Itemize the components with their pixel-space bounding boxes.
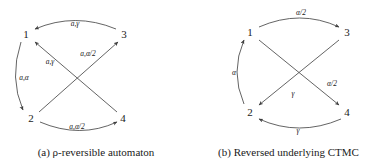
edge-label-2-to-1: α	[232, 69, 236, 77]
edge-4-to-2	[259, 119, 341, 128]
edge-2-to-1	[237, 40, 244, 104]
node-3: 3	[121, 29, 127, 40]
panel-a-caption: (a) ρ-reversible automaton	[0, 145, 192, 159]
edge-label-1-to-2: a,α	[19, 74, 29, 82]
node-4: 4	[120, 113, 126, 124]
node-4: 4	[344, 107, 350, 118]
edge-label-1-to-4: α/2	[327, 80, 337, 88]
panel-a-graph	[0, 0, 192, 165]
edge-label-3-to-1: a,γ	[71, 20, 80, 28]
edge-2-to-3	[39, 42, 118, 112]
panel-b-graph	[192, 0, 385, 165]
edge-label-4-to-1: a,γ	[46, 58, 55, 66]
node-1: 1	[23, 29, 29, 40]
edge-label-4-to-2: γ	[297, 127, 300, 135]
edge-label-3-to-2: γ	[292, 90, 295, 98]
edge-label-2-to-4: a,α/2	[69, 123, 84, 131]
node-1: 1	[247, 27, 253, 38]
edge-label-2-to-3: a,α/2	[80, 50, 95, 58]
edge-label-1-to-3: α/2	[296, 9, 306, 17]
node-2: 2	[28, 113, 34, 124]
node-3: 3	[344, 27, 350, 38]
panel-rho-reversible-automaton: 1 3 2 4 a,γ a,α a,γ a,α/2 a,α/2 (a) ρ-re…	[0, 0, 192, 165]
edge-1-to-3	[259, 18, 339, 27]
node-2: 2	[247, 107, 253, 118]
edge-4-to-1	[35, 42, 117, 112]
figure-container: 1 3 2 4 a,γ a,α a,γ a,α/2 a,α/2 (a) ρ-re…	[0, 0, 385, 165]
panel-reversed-underlying-ctmc: 1 3 2 4 α/2 α α/2 γ γ (b) Reversed under…	[192, 0, 385, 165]
panel-b-caption: (b) Reversed underlying CTMC	[192, 145, 385, 159]
